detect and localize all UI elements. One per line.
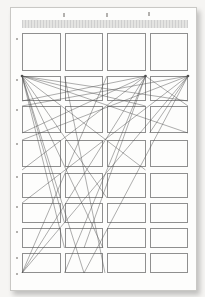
fan-line xyxy=(22,76,103,248)
left-margin-tick xyxy=(16,231,18,233)
fan-line xyxy=(22,76,107,198)
left-margin-tick xyxy=(16,109,18,111)
fan-line xyxy=(22,76,188,140)
fan-line xyxy=(65,76,106,273)
fan-origin-point xyxy=(21,75,24,78)
left-margin-tick xyxy=(16,79,18,81)
fan-origin-point xyxy=(144,75,147,78)
fan-line xyxy=(22,76,146,273)
fan-line xyxy=(22,76,146,106)
top-margin-tick xyxy=(106,13,108,17)
fan-lines-overlay xyxy=(0,0,205,297)
fan-line xyxy=(150,76,189,133)
left-margin-tick xyxy=(16,206,18,208)
fan-line xyxy=(84,76,146,248)
left-margin-tick xyxy=(16,143,18,145)
fan-line xyxy=(84,76,188,273)
left-margin-tick xyxy=(16,273,18,275)
left-margin-tick xyxy=(16,176,18,178)
fan-line xyxy=(22,76,146,133)
top-margin-tick xyxy=(148,12,150,16)
scanned-page xyxy=(0,0,205,297)
left-margin-tick xyxy=(16,257,18,259)
fan-line xyxy=(22,76,188,133)
top-margin-tick xyxy=(63,13,65,17)
fan-line xyxy=(22,76,84,273)
left-margin-tick xyxy=(16,38,18,40)
fan-line xyxy=(22,76,188,273)
fan-line xyxy=(22,76,65,223)
fan-line xyxy=(22,76,107,273)
fan-origin-point xyxy=(187,75,190,78)
fan-line xyxy=(22,76,65,248)
